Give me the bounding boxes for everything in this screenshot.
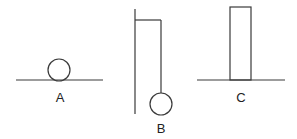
figure-a-ball (48, 59, 70, 81)
figure-a-label: A (56, 90, 65, 105)
figure-b: B (135, 9, 172, 136)
figure-c-label: C (236, 90, 245, 105)
physics-diagram: A B C (0, 0, 297, 139)
figure-b-label: B (157, 121, 166, 136)
figure-c-block (230, 7, 251, 80)
figure-a: A (16, 59, 103, 105)
figure-b-ball (150, 93, 172, 115)
figure-c: C (197, 7, 285, 105)
